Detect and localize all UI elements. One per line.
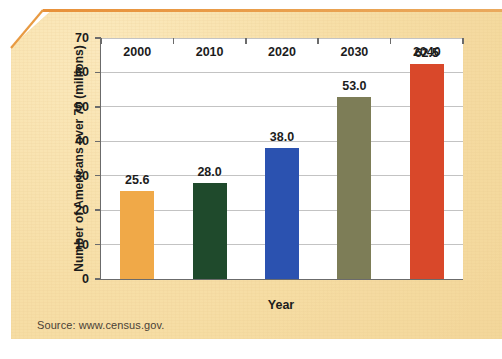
x-axis-tick-label: 2030 — [319, 46, 389, 59]
x-axis-tick-label: 2010 — [175, 46, 245, 59]
x-axis-tick — [317, 38, 319, 44]
x-axis-tick — [173, 38, 175, 44]
y-axis-tick — [95, 106, 101, 108]
bar-value-label: 38.0 — [270, 131, 294, 144]
source-note: Source: www.census.gov. — [37, 319, 164, 331]
y-axis-tick-label: 40 — [53, 135, 89, 148]
y-axis-tick-label: 0 — [53, 273, 89, 286]
x-axis-tick-label: 2040 — [392, 46, 462, 59]
gridline — [101, 72, 463, 73]
figure-container: Number of Americans over 70 (millions) 0… — [0, 0, 502, 359]
bar-value-label: 25.6 — [125, 174, 149, 187]
y-axis-tick — [95, 278, 101, 280]
bar — [120, 191, 154, 279]
y-axis-tick — [95, 209, 101, 211]
y-axis-tick — [95, 72, 101, 74]
x-axis-tick — [462, 38, 464, 44]
gridline — [101, 38, 463, 39]
x-axis-tick-label: 2020 — [247, 46, 317, 59]
y-axis-tick — [95, 141, 101, 143]
bar — [265, 148, 299, 279]
y-axis-tick-label: 60 — [53, 66, 89, 79]
x-axis-tick — [100, 38, 102, 44]
y-axis-tick-label: 70 — [53, 32, 89, 45]
bar-value-label: 28.0 — [197, 166, 221, 179]
panel-top-rule — [43, 9, 502, 12]
bar-value-label: 53.0 — [342, 80, 366, 93]
y-axis-tick-label: 50 — [53, 101, 89, 114]
y-axis-tick-label: 10 — [53, 239, 89, 252]
x-axis-tick-label: 2000 — [102, 46, 172, 59]
y-axis-tick-label: 30 — [53, 170, 89, 183]
bar — [337, 97, 371, 279]
plot-area: Number of Americans over 70 (millions) 0… — [100, 38, 463, 280]
x-axis-tick — [390, 38, 392, 44]
y-axis-tick-label: 20 — [53, 204, 89, 217]
bar — [193, 183, 227, 279]
x-axis-tick — [245, 38, 247, 44]
bar — [410, 64, 444, 279]
gridline — [101, 106, 463, 107]
x-axis-title: Year — [100, 298, 462, 312]
y-axis-tick — [95, 175, 101, 177]
y-axis-tick — [95, 244, 101, 246]
